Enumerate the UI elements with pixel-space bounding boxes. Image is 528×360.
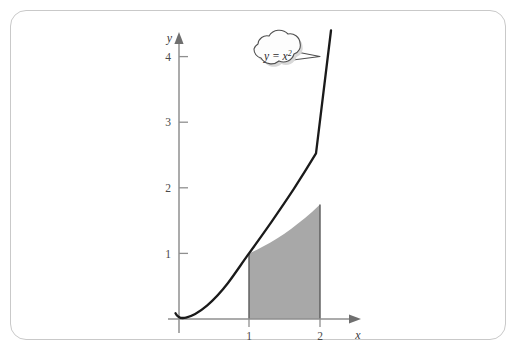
- arrow-up-icon: [174, 32, 183, 44]
- y-tick-label-3: 3: [165, 116, 171, 128]
- x-tick-label-1: 1: [246, 330, 252, 342]
- y-tick-label-2: 2: [165, 182, 171, 194]
- figure-container: 1 2 3 4 1 2 y x y = x2: [0, 0, 528, 360]
- x-tick-label-2: 2: [317, 330, 323, 342]
- y-tick-label-4: 4: [165, 51, 171, 63]
- y-tick-label-1: 1: [165, 248, 171, 260]
- callout-equation-base: y = x: [263, 50, 289, 63]
- callout-equation-text: y = x2: [263, 49, 292, 63]
- x-axis-label: x: [354, 328, 361, 342]
- arrow-right-icon: [349, 314, 361, 323]
- shaded-area-region: [249, 205, 320, 320]
- equation-callout-bubble: y = x2: [254, 30, 303, 67]
- callout-equation-exponent: 2: [288, 49, 292, 58]
- plot-canvas: 1 2 3 4 1 2 y x y = x2: [0, 0, 528, 360]
- y-axis-label: y: [166, 31, 173, 45]
